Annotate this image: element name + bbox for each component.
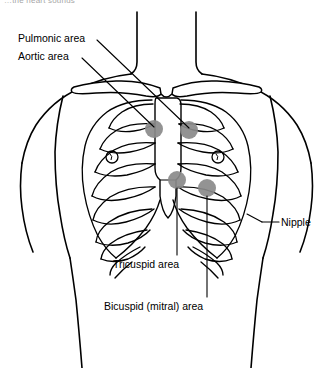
pulmonic-area-marker [145, 120, 163, 138]
bicuspid-area-marker [198, 179, 216, 197]
label-pulmonic-area: Pulmonic area [18, 32, 85, 44]
label-tricuspid-area: Tricuspid area [113, 258, 179, 270]
clavicles [71, 81, 261, 97]
heart-auscultation-diagram: …the heart sounds Pulmonic area Aortic a… [0, 0, 326, 368]
aortic-area-marker [180, 121, 198, 139]
tricuspid-area-marker [168, 171, 186, 189]
leader-line-nipple-tail [247, 214, 262, 222]
label-bicuspid-area: Bicuspid (mitral) area [104, 300, 203, 312]
label-nipple: Nipple [281, 216, 311, 228]
label-aortic-area: Aortic area [18, 50, 69, 62]
cropped-title: …the heart sounds [4, 0, 75, 3]
